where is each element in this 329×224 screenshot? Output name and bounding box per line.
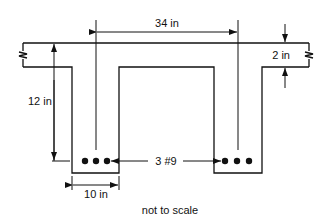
reinforcement-label: 3 #9 bbox=[155, 155, 176, 167]
flange-thickness-label: 2 in bbox=[272, 49, 290, 61]
center-spacing-label: 34 in bbox=[155, 17, 179, 29]
depth-label: 12 in bbox=[28, 95, 52, 107]
beam-outline bbox=[19, 43, 313, 173]
t-beam-diagram: 34 in 2 in 12 in 3 #9 10 in not to scale bbox=[0, 0, 329, 224]
web-width-label: 10 in bbox=[84, 188, 108, 200]
depth-dimension bbox=[52, 44, 70, 161]
web-centerlines bbox=[96, 20, 238, 150]
scale-note: not to scale bbox=[142, 204, 198, 216]
